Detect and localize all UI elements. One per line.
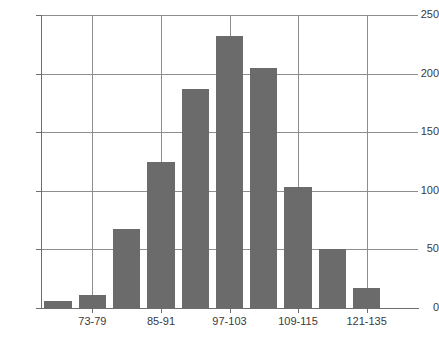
- bar: [216, 36, 243, 308]
- x-tick-mark: [161, 308, 162, 313]
- x-tick-label: 73-79: [62, 315, 122, 327]
- x-tick-mark: [92, 308, 93, 313]
- bar: [250, 68, 277, 308]
- x-tick-mark: [298, 308, 299, 313]
- bar: [319, 249, 346, 308]
- bar: [353, 288, 380, 308]
- y-tick-mark: [36, 308, 41, 309]
- bar: [79, 295, 106, 308]
- bar: [182, 89, 209, 308]
- x-tick-mark: [367, 308, 368, 313]
- bar: [147, 162, 174, 309]
- x-tick-label: 85-91: [131, 315, 191, 327]
- bar: [113, 229, 140, 308]
- x-tick-label: 97-103: [200, 315, 260, 327]
- bar: [284, 187, 311, 308]
- histogram-chart: 050100150200250 73-7985-9197-103109-1151…: [0, 0, 439, 345]
- x-tick-mark: [230, 308, 231, 313]
- bar: [44, 301, 71, 308]
- bars-layer: [41, 15, 418, 308]
- x-tick-label: 109-115: [268, 315, 328, 327]
- x-tick-label: 121-135: [337, 315, 397, 327]
